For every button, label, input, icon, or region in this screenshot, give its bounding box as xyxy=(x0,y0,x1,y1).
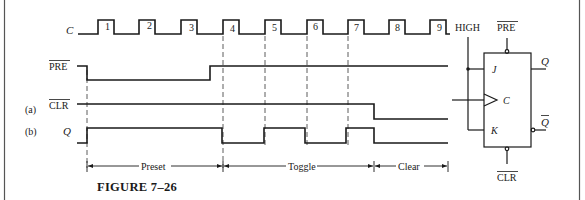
qbar-inversion-bubble xyxy=(531,128,535,132)
pulse-6: 6 xyxy=(313,21,318,32)
interval-markers: Preset Toggle Clear xyxy=(87,161,448,173)
pre-label-group: PRE xyxy=(49,61,70,73)
interval-preset-label: Preset xyxy=(141,161,166,172)
pre-waveform xyxy=(77,66,448,80)
c-pin-label: C xyxy=(503,95,510,106)
j-pin-label: J xyxy=(492,64,497,75)
q-output-label: Q xyxy=(541,55,549,67)
high-label: HIGH xyxy=(455,22,480,33)
q-label-group: (b) Q xyxy=(25,125,71,138)
pulse-7: 7 xyxy=(354,22,359,33)
pulse-8: 8 xyxy=(395,22,400,33)
qbar-output-label: Q xyxy=(541,116,549,128)
clock-triangle-icon xyxy=(484,94,497,106)
q-label: Q xyxy=(63,125,71,137)
clr-label-group: (a) CLR xyxy=(25,100,70,117)
clr-prefix: (a) xyxy=(25,104,36,116)
clr-inversion-bubble xyxy=(505,147,509,151)
pulse-4: 4 xyxy=(230,23,235,34)
k-pin-label: K xyxy=(490,125,499,136)
timing-diagram-figure: C PRE (a) CLR (b) Q 1 2 3 4 5 6 7 8 9 xyxy=(0,0,585,200)
clock-label: C xyxy=(66,24,74,36)
clr-label: CLR xyxy=(49,100,69,111)
clr-waveform xyxy=(77,104,448,119)
interval-clear-label: Clear xyxy=(398,161,420,172)
pulse-1: 1 xyxy=(105,21,110,32)
pulse-9: 9 xyxy=(437,22,442,33)
pre-inversion-bubble xyxy=(505,50,509,54)
q-waveform xyxy=(77,128,448,143)
pulse-3: 3 xyxy=(189,22,194,33)
pre-label: PRE xyxy=(49,61,67,72)
jk-flipflop-symbol: HIGH J C K PRE CLR Q Q xyxy=(452,22,549,184)
pulse-2: 2 xyxy=(147,20,152,31)
figure-caption: FIGURE 7–26 xyxy=(97,180,177,194)
clr-pin-label: CLR xyxy=(497,172,517,183)
q-prefix: (b) xyxy=(25,126,37,138)
pre-pin-label: PRE xyxy=(497,22,515,33)
interval-toggle-label: Toggle xyxy=(288,161,316,172)
reference-dashes xyxy=(87,36,348,168)
pulse-5: 5 xyxy=(272,22,277,33)
